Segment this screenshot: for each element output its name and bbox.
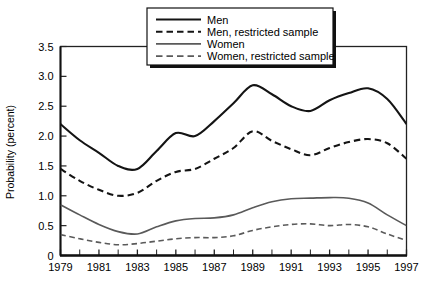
y-axis-ticks: 00.51.01.52.02.53.03.5	[38, 41, 66, 262]
x-tick-label: 1989	[240, 261, 264, 273]
legend-label-3: Women, restricted sample	[207, 50, 335, 62]
x-axis-ticks: 1979198119831985198719891991199319951997	[48, 250, 418, 273]
y-tick-label: 3.0	[38, 70, 53, 82]
x-tick-label: 1979	[48, 261, 72, 273]
legend-label-1: Men, restricted sample	[207, 26, 318, 38]
legend-label-0: Men	[207, 14, 228, 26]
y-tick-label: 3.5	[38, 41, 53, 53]
x-tick-label: 1985	[164, 261, 188, 273]
x-tick-label: 1993	[317, 261, 341, 273]
line-chart: Probability (percent) 00.51.01.52.02.53.…	[0, 0, 432, 282]
plot-area-border	[61, 47, 407, 256]
series-line-0	[61, 85, 407, 170]
x-tick-label: 1995	[356, 261, 380, 273]
y-tick-label: 1.0	[38, 190, 53, 202]
y-axis-title-label: Probability (percent)	[4, 105, 16, 199]
chart-legend: MenMen, restricted sampleWomenWomen, res…	[147, 8, 336, 68]
data-series-layer	[61, 85, 407, 245]
x-tick-label: 1987	[202, 261, 226, 273]
chart-container: Probability (percent) 00.51.01.52.02.53.…	[0, 0, 432, 282]
y-tick-label: 0.5	[38, 220, 53, 232]
x-tick-label: 1997	[394, 261, 418, 273]
x-tick-label: 1981	[87, 261, 111, 273]
y-tick-label: 2.0	[38, 130, 53, 142]
series-line-3	[61, 224, 407, 245]
y-tick-label: 1.5	[38, 160, 53, 172]
y-axis-title: Probability (percent)	[4, 105, 16, 199]
x-tick-label: 1991	[279, 261, 303, 273]
x-tick-label: 1983	[125, 261, 149, 273]
y-tick-label: 2.5	[38, 100, 53, 112]
legend-label-2: Women	[207, 38, 245, 50]
series-line-2	[61, 198, 407, 235]
